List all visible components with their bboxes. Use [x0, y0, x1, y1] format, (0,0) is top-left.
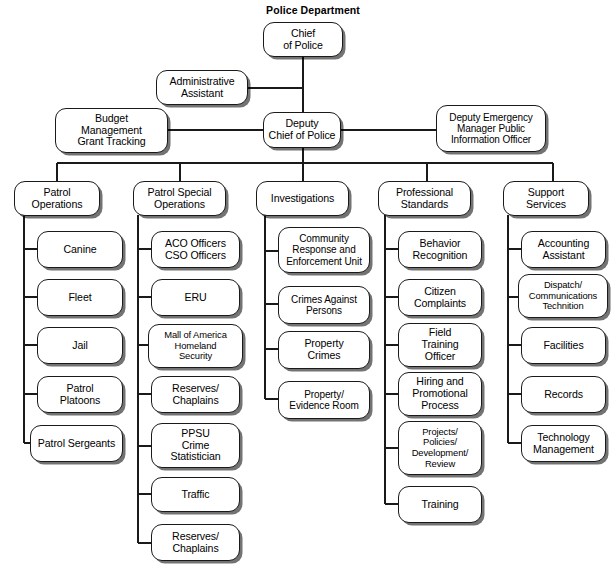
node-field-training-officer[interactable]: FieldTrainingOfficer [398, 323, 482, 367]
node-label: CitizenComplaints [412, 286, 468, 310]
node-label: Property/Evidence Room [287, 389, 360, 411]
node-label: Training [419, 499, 460, 511]
node-label: Fleet [66, 292, 93, 304]
node-label: Traffic [179, 489, 211, 501]
node-chief-of-police[interactable]: Chiefof Police [263, 22, 343, 57]
node-fleet[interactable]: Fleet [37, 279, 123, 316]
node-label: Reserves/Chaplains [170, 383, 221, 407]
division-investigations[interactable]: Investigations [256, 181, 349, 216]
node-patrol-sergeants[interactable]: Patrol Sergeants [30, 425, 123, 462]
node-label: ACO OfficersCSO Officers [163, 238, 228, 262]
node-label: ERU [182, 292, 208, 304]
node-label: Deputy EmergencyManager PublicInformatio… [447, 112, 534, 146]
node-label: Facilities [541, 340, 585, 352]
node-label: PropertyCrimes [302, 338, 345, 362]
node-property-crimes[interactable]: PropertyCrimes [278, 331, 370, 369]
node-hiring-promotional-process[interactable]: Hiring andPromotionalProcess [398, 372, 482, 416]
node-mall-of-america-homeland-security[interactable]: Mall of AmericaHomelandSecurity [148, 324, 243, 368]
node-label: Canine [62, 244, 99, 256]
node-label: BudgetManagementGrant Tracking [75, 113, 147, 149]
node-label: PatrolOperations [30, 187, 85, 211]
node-label: Chiefof Police [281, 28, 325, 52]
division-support-services[interactable]: SupportServices [503, 181, 589, 216]
node-label: DeputyChief of Police [267, 118, 338, 142]
node-label: Reserves/Chaplains [170, 531, 221, 555]
division-patrol-operations[interactable]: PatrolOperations [14, 181, 100, 216]
node-community-response-enforcement-unit[interactable]: CommunityResponse andEnforcement Unit [278, 227, 370, 273]
division-professional-standards[interactable]: ProfessionalStandards [378, 181, 471, 216]
node-label: Jail [70, 340, 90, 352]
node-eru[interactable]: ERU [151, 279, 240, 316]
node-label: SupportServices [524, 187, 568, 211]
node-reserves-chaplains-2[interactable]: Reserves/Chaplains [151, 524, 240, 561]
node-deputy-emergency-manager[interactable]: Deputy EmergencyManager PublicInformatio… [436, 105, 546, 152]
node-canine[interactable]: Canine [37, 231, 123, 268]
node-label: ProfessionalStandards [394, 187, 455, 211]
node-label: CommunityResponse andEnforcement Unit [284, 233, 364, 267]
node-label: Hiring andPromotionalProcess [410, 376, 469, 412]
node-label: Investigations [269, 193, 336, 205]
node-label: PPSUCrimeStatistician [168, 428, 222, 464]
node-reserves-chaplains-1[interactable]: Reserves/Chaplains [151, 376, 240, 413]
node-budget-management[interactable]: BudgetManagementGrant Tracking [55, 108, 168, 153]
node-projects-policies-development-review[interactable]: Projects/Policies/Development/Review [398, 421, 482, 475]
node-aco-cso-officers[interactable]: ACO OfficersCSO Officers [151, 231, 240, 268]
org-chart: Police Department Chiefof Police Adminis… [0, 0, 612, 572]
node-label: Mall of AmericaHomelandSecurity [162, 330, 229, 362]
node-deputy-chief-of-police[interactable]: DeputyChief of Police [263, 112, 341, 148]
node-accounting-assistant[interactable]: AccountingAssistant [521, 231, 606, 268]
node-label: TechnologyManagement [531, 432, 596, 456]
node-label: Patrol Sergeants [36, 438, 117, 450]
node-patrol-platoons[interactable]: PatrolPlatoons [37, 376, 123, 413]
node-label: AccountingAssistant [536, 238, 591, 262]
node-jail[interactable]: Jail [37, 327, 123, 364]
node-records[interactable]: Records [521, 376, 606, 413]
node-label: Records [542, 389, 585, 401]
node-label: FieldTrainingOfficer [419, 327, 460, 363]
node-crimes-against-persons[interactable]: Crimes AgainstPersons [278, 286, 370, 324]
node-label: Dispatch/CommunicationsTechnition [527, 280, 599, 312]
node-label: PatrolPlatoons [58, 383, 102, 407]
chart-title: Police Department [253, 4, 373, 16]
node-citizen-complaints[interactable]: CitizenComplaints [398, 279, 482, 316]
division-patrol-special-operations[interactable]: Patrol SpecialOperations [133, 181, 226, 216]
node-ppsu-crime-statistician[interactable]: PPSUCrimeStatistician [151, 423, 240, 468]
node-label: Patrol SpecialOperations [146, 187, 214, 211]
node-facilities[interactable]: Facilities [521, 327, 606, 364]
node-administrative-assistant[interactable]: AdministrativeAssistant [156, 70, 248, 105]
node-dispatch-communications-technition[interactable]: Dispatch/CommunicationsTechnition [518, 274, 608, 318]
node-traffic[interactable]: Traffic [151, 477, 240, 512]
node-behavior-recognition[interactable]: BehaviorRecognition [398, 231, 482, 268]
node-label: Crimes AgainstPersons [289, 294, 359, 316]
node-label: Projects/Policies/Development/Review [410, 427, 471, 469]
node-label: AdministrativeAssistant [167, 76, 236, 100]
node-property-evidence-room[interactable]: Property/Evidence Room [278, 381, 370, 419]
node-technology-management[interactable]: TechnologyManagement [521, 425, 606, 462]
node-label: BehaviorRecognition [411, 238, 470, 262]
node-training[interactable]: Training [398, 486, 482, 523]
